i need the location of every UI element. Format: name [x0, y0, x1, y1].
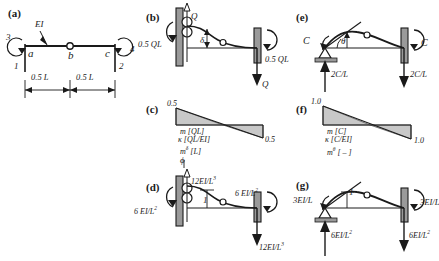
label-peak-left-f: 1.0 [311, 98, 321, 106]
delta-arrow-down [204, 42, 210, 48]
label-dim-left: 0.5 L [31, 73, 48, 82]
panel-f-drawing [293, 98, 438, 170]
label-force-bottom-d: 12EI/L3 [259, 242, 284, 252]
left-fixed-wall-d [176, 176, 183, 226]
label-reaction-right-g: 6EI/L2 [409, 230, 430, 240]
reaction-right-arrowhead-e [399, 76, 409, 88]
label-moment-left-b: 0.5 QL [138, 40, 162, 49]
force-bottom-sup: 3 [281, 241, 284, 247]
m-delta-unit: [L] [188, 147, 201, 156]
label-theta-e: θ [341, 37, 345, 46]
label-moment-right-e: C [421, 38, 428, 48]
label-peak-right-f: 1.0 [414, 137, 424, 145]
panel-f: (f) 1.0 1.0 m [C] κ [C/EI] mθ [ – ] [293, 98, 438, 170]
panel-f-tag: (f) [296, 104, 307, 115]
mid-hinge-e [364, 32, 370, 38]
label-moment-right-b: 0.5 QL [265, 55, 289, 64]
force-bottom-base: 12EI/L [259, 243, 281, 252]
label-moment-left-d: 6 EI/L2 [134, 206, 157, 216]
force-top-base: 12EI/L [191, 177, 213, 186]
label-kappa-ql-ei: κ [QL/EI] [178, 136, 210, 144]
label-moment-left-e: C [303, 36, 310, 46]
label-dof-1: 1 [14, 62, 19, 71]
panel-g-drawing [293, 170, 438, 261]
panel-c: (c) 0.5 0.5 m [QL] κ [QL/EI] mδ [L] ϕ [143, 98, 293, 170]
label-phi: ϕ [180, 156, 185, 165]
panel-e: (e) [293, 0, 438, 98]
dim-arrow-4 [108, 87, 115, 93]
panel-b-tag: (b) [146, 12, 159, 23]
ei-leader-tip [40, 36, 47, 45]
label-node-a: a [28, 48, 34, 59]
reaction-right-base-g: 6EI/L [409, 231, 427, 240]
label-moment-right-d: 6 EI/L2 [235, 188, 258, 198]
mid-hinge [220, 40, 226, 46]
label-m-theta: mθ [ – ] [327, 147, 352, 157]
label-moment-right-g: 3EI/L [420, 198, 439, 207]
moment-right-base-d: 6 EI/L [235, 189, 255, 198]
panel-g: (g) 3EI/L 3EI/L 6EI/L2 [293, 170, 438, 261]
panel-c-tag: (c) [146, 104, 158, 115]
m-theta-unit: [ – ] [335, 148, 351, 157]
panel-d: (d) 12EI/L3 6 EI/L2 6 EI/L2 [143, 170, 293, 261]
label-unit-rot-g: 1 [349, 188, 354, 197]
moment-left-sup-d: 2 [154, 205, 157, 211]
moment-left-base-d: 6 EI/L [134, 207, 154, 216]
reaction-right-arrowhead-g [399, 240, 409, 252]
label-peak-left-c: 0.5 [167, 100, 177, 108]
pin-ground-e [315, 58, 337, 62]
label-load-q: Q [191, 12, 198, 21]
dim-arrow-3 [70, 87, 77, 93]
mid-hinge-g [364, 192, 370, 198]
label-dof-3: 3 [6, 33, 11, 42]
label-reaction-left-g: 6EI/L2 [331, 230, 352, 240]
label-kappa-c-ei: κ [C/EI] [325, 136, 352, 144]
label-reaction-left-e: 2C/L [331, 70, 348, 79]
slider-guide-arrow-d [184, 169, 190, 177]
reaction-right-sup-g: 2 [427, 229, 430, 235]
pin-ground-g [315, 218, 337, 222]
label-peak-right-c: 0.5 [265, 136, 275, 144]
reaction-q-arrowhead [252, 74, 262, 86]
mid-hinge-d [220, 199, 226, 205]
force-top-sup: 3 [213, 175, 216, 181]
dim-arrow-1 [25, 87, 32, 93]
panel-a-tag: (a) [8, 8, 21, 19]
panel-b-drawing [143, 0, 293, 98]
moment-right-sup-d: 2 [255, 187, 258, 193]
left-fixed-wall [176, 8, 183, 66]
label-ei: EI [35, 20, 44, 29]
panel-e-tag: (e) [296, 12, 308, 23]
label-force-top-d: 12EI/L3 [191, 176, 216, 186]
pin-support-g [319, 208, 331, 218]
pin-support-e [319, 48, 331, 58]
reaction-left-sup-g: 2 [349, 229, 352, 235]
panel-b: (b) [143, 0, 293, 98]
panel-c-drawing [143, 98, 293, 170]
slider-guide-arrow [184, 3, 190, 11]
label-reaction-q: Q [262, 80, 269, 89]
panel-d-tag: (d) [146, 182, 159, 193]
tangent-line-g [325, 182, 361, 208]
panel-e-drawing [293, 0, 438, 98]
label-dof-4: 4 [130, 45, 135, 54]
panel-g-tag: (g) [296, 180, 309, 191]
label-node-c: c [105, 48, 110, 59]
panel-a: (a) [0, 0, 145, 110]
label-dim-right: 0.5 L [76, 73, 93, 82]
label-unit-disp-d: 1 [203, 196, 208, 205]
label-delta: δ [200, 36, 204, 45]
label-node-b: b [68, 50, 74, 61]
label-reaction-right-e: 2C/L [410, 70, 427, 79]
dim-arrow-2 [63, 87, 70, 93]
reaction-left-base-g: 6EI/L [331, 231, 349, 240]
label-moment-left-g: 3EI/L [293, 196, 312, 205]
label-dof-2: 2 [119, 62, 124, 71]
